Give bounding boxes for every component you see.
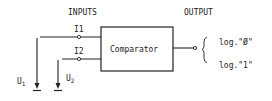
source-u2: U2 <box>54 60 75 91</box>
input-i1: I1 <box>40 25 101 39</box>
output-terminal-icon <box>193 46 196 49</box>
terminal-i1-icon <box>77 35 80 38</box>
comparator-label: Comparator <box>110 45 158 54</box>
source-u2-label: U2 <box>66 74 75 84</box>
terminal-i2-label: I2 <box>74 47 84 56</box>
input-i2: I2 <box>62 47 101 61</box>
source-u1-label: U1 <box>17 77 26 87</box>
terminal-i1-label: I1 <box>74 25 84 34</box>
arrow-down-icon <box>35 83 40 89</box>
brace-icon <box>202 37 207 63</box>
source-u1: U1 <box>17 38 41 91</box>
comparator-diagram: INPUTS OUTPUT Comparator I1 I2 U1 U2 <box>0 0 272 101</box>
terminal-i2-icon <box>77 57 80 60</box>
arrow-down-icon <box>56 83 61 89</box>
inputs-heading: INPUTS <box>68 8 97 17</box>
output-state-0: log."Ø" <box>219 37 253 47</box>
output-state-1: log."1" <box>219 61 253 70</box>
output-heading: OUTPUT <box>184 8 213 17</box>
output: log."Ø" log."1" <box>173 37 253 70</box>
comparator-block: Comparator <box>101 27 173 71</box>
